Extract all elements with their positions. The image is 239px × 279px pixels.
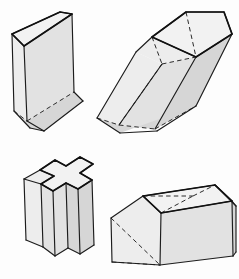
solid-house-prism [111,185,236,265]
visible-edge-8 [120,131,157,133]
face-far-right-face [78,180,94,254]
face-left-column-face [24,179,43,247]
solid-cross-prism [24,157,94,256]
solids-illustration [0,0,239,279]
figure-sheet [0,0,239,279]
solid-triangular-prism [12,12,83,131]
solid-oblique-pentagonal-prism [97,12,232,133]
face-center-right-face [53,183,68,256]
